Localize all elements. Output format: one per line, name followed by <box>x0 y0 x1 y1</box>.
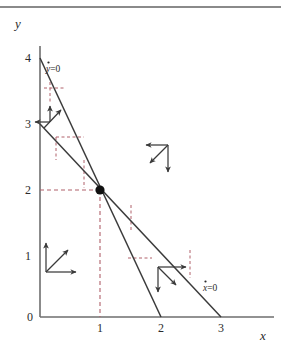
phase-plane-figure: y x 0 1 2 3 4 1 2 3 <box>0 0 281 352</box>
ydot-zero-label-group: y=0 <box>45 61 61 74</box>
slope-tick-marks <box>44 82 190 278</box>
ydot-zero-label: y=0 <box>45 64 61 74</box>
x-tick-label-3: 3 <box>218 321 224 335</box>
arrow-up-right <box>44 110 61 128</box>
x-tick-label-2: 2 <box>158 321 164 335</box>
arrows-upper-right <box>146 145 168 172</box>
x-tick-label-1: 1 <box>97 321 103 335</box>
y-tick-label-1: 1 <box>25 249 31 263</box>
origin-label: 0 <box>27 310 33 324</box>
arrows-upper-left <box>35 106 61 128</box>
equilibrium-guides <box>40 190 100 317</box>
xdot-label-dot-accent <box>204 280 206 282</box>
y-tick-label-4: 4 <box>25 51 31 65</box>
arrows-lower-right <box>158 267 186 292</box>
arrow-up-right <box>46 250 68 272</box>
ydot-label-dot-accent <box>47 61 49 63</box>
phase-plane-plot: y x 0 1 2 3 4 1 2 3 <box>0 0 281 352</box>
arrow-down-right <box>158 267 176 285</box>
axis-group <box>40 46 274 317</box>
y-tick-label-3: 3 <box>25 117 31 131</box>
xdot-zero-locus <box>40 124 221 317</box>
y-axis-label: y <box>13 16 21 31</box>
xdot-zero-label: x=0 <box>202 283 218 293</box>
equilibrium-point <box>95 185 104 194</box>
x-axis-label: x <box>259 328 266 343</box>
arrow-down-right <box>150 145 168 163</box>
arrows-lower-left <box>46 243 76 272</box>
xdot-zero-label-group: x=0 <box>202 280 218 293</box>
y-tick-label-2: 2 <box>25 183 31 197</box>
